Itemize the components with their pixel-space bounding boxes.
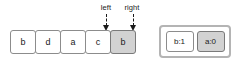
array-cell: b	[10, 30, 36, 54]
sliding-window-diagram: left right b d a c b b:1 a:0	[0, 0, 241, 66]
array-container: b d a c b	[10, 30, 135, 54]
array-cell-highlighted: b	[110, 30, 136, 54]
counts-panel: b:1 a:0	[159, 25, 231, 58]
count-entry-highlighted: a:0	[197, 31, 225, 52]
count-entry: b:1	[166, 31, 194, 52]
array-cell: d	[35, 30, 61, 54]
array-cell: c	[85, 30, 111, 54]
pointer-label-right: right	[112, 3, 152, 12]
array-cell: a	[60, 30, 86, 54]
